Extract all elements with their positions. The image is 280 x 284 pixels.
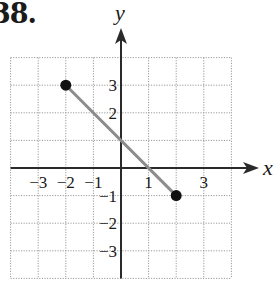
coordinate-plane: xy −3−2−11332−1−2−3 — [0, 0, 280, 284]
y-tick-label: 2 — [109, 104, 118, 123]
endpoint-dot — [171, 190, 182, 201]
axes: xy — [11, 0, 273, 278]
y-tick-label: −3 — [99, 242, 117, 261]
x-tick-label: 3 — [200, 173, 209, 192]
y-tick-label: −2 — [99, 214, 117, 233]
x-tick-label: −3 — [29, 173, 47, 192]
y-axis-label: y — [113, 0, 125, 25]
y-tick-label: −1 — [99, 187, 117, 206]
x-tick-label: −2 — [57, 173, 75, 192]
endpoint-dot — [60, 80, 71, 91]
y-tick-label: 3 — [109, 76, 118, 95]
x-tick-label: 1 — [144, 173, 153, 192]
x-axis-label: x — [262, 155, 273, 180]
